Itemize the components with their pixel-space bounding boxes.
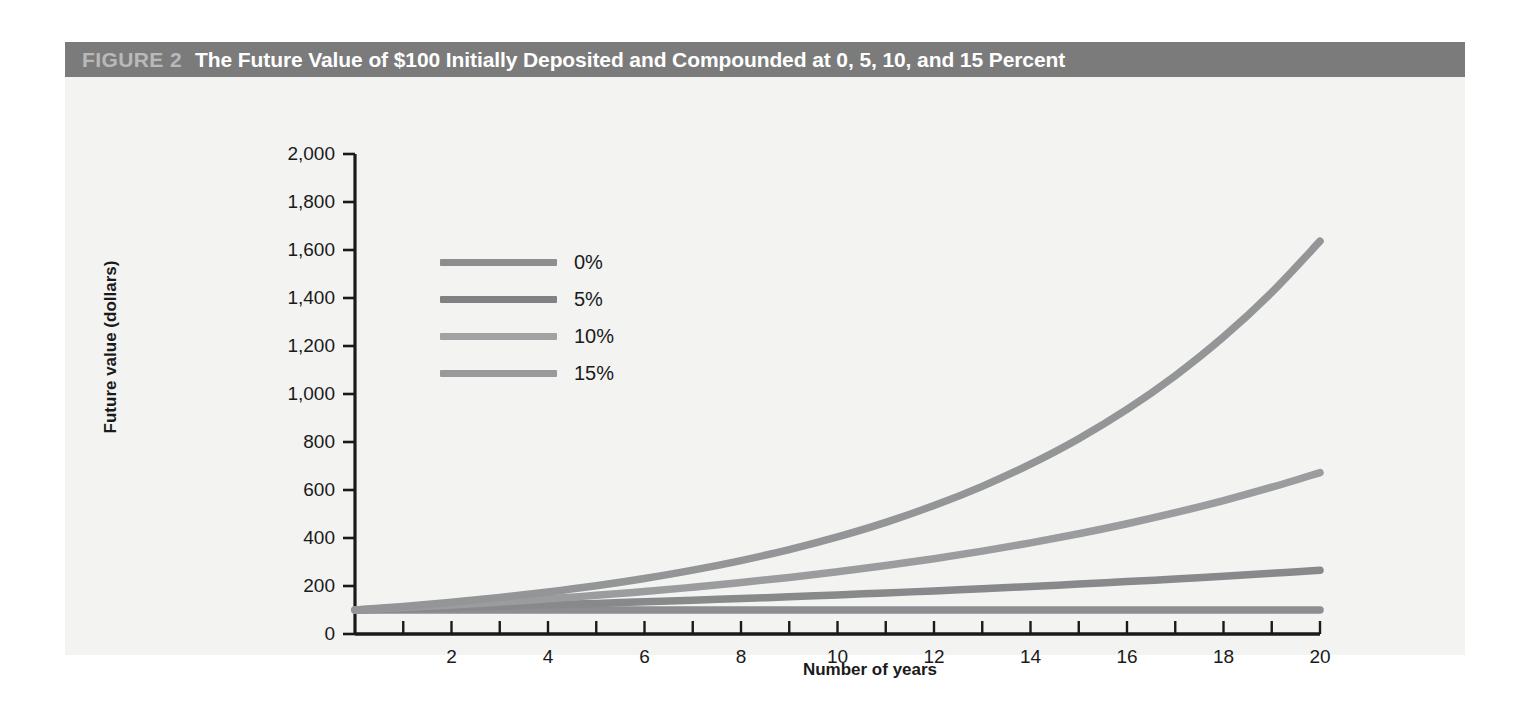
legend-item: 5% [440,281,614,318]
legend-item: 10% [440,318,614,355]
figure-header: FIGURE 2 The Future Value of $100 Initia… [65,42,1465,77]
legend-swatch-icon [440,333,557,340]
legend-label: 0% [574,251,603,274]
plot-canvas [65,77,1465,655]
chart-legend: 0%5%10%15% [440,244,614,392]
legend-swatch-icon [440,259,557,266]
axis-lines [343,154,1320,634]
figure-panel: FIGURE 2 The Future Value of $100 Initia… [65,42,1465,655]
legend-label: 5% [574,288,603,311]
legend-label: 10% [574,325,614,348]
legend-swatch-icon [440,296,557,303]
legend-label: 15% [574,362,614,385]
figure-title: The Future Value of $100 Initially Depos… [195,48,1065,72]
legend-item: 15% [440,355,614,392]
series-line-10pct [355,473,1320,610]
plot-body: Future value (dollars) Number of years 0… [65,77,1465,655]
figure-number-label: FIGURE 2 [82,48,182,72]
legend-item: 0% [440,244,614,281]
legend-swatch-icon [440,370,557,377]
